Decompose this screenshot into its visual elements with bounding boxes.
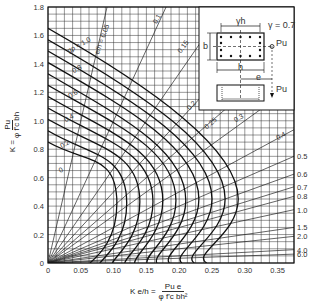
- interaction-diagram: 00.050.100.150.200.250.300.3500.20.40.60…: [0, 0, 312, 306]
- eh-top-label: 0.15: [176, 39, 190, 54]
- eh-top-label: 0.1: [151, 13, 162, 25]
- x-tick-label: 0.05: [73, 266, 88, 275]
- x-tick-label: 0.20: [172, 266, 187, 275]
- eh-right-label: 0.7: [297, 183, 307, 192]
- x-tick-label: 0.35: [270, 266, 285, 275]
- x-tick-label: 0.10: [106, 266, 121, 275]
- y-tick-label: 1.6: [34, 31, 44, 40]
- eh-top-label: e/h = 0.05: [93, 23, 110, 55]
- x-tick-label: 0.15: [139, 266, 154, 275]
- h-label: h: [238, 62, 243, 72]
- gamma-h-label: γh: [236, 16, 246, 26]
- gamma-value-label: γ = 0.7: [268, 20, 295, 30]
- y-tick-label: 1.8: [34, 3, 44, 12]
- y-tick-label: 0.2: [34, 231, 44, 240]
- y-tick-label: 0: [40, 259, 44, 268]
- eh-right-label: 6.0: [297, 250, 307, 259]
- curve-label: 0.2: [59, 138, 71, 149]
- x-tick-label: 0.30: [237, 266, 252, 275]
- b-label: b: [203, 41, 208, 51]
- eh-right-label: 0.5: [297, 152, 307, 161]
- curve-label: 0.6: [67, 88, 79, 99]
- y-axis-label: K = Pu φ f'c bh: [5, 92, 19, 172]
- eh-right-label: 0.8: [297, 192, 307, 201]
- x-axis-label: K e/h = Pu e φ f'c bh²: [130, 282, 188, 301]
- y-tick-label: 1.0: [34, 117, 44, 126]
- eh-right-label: 2.0: [297, 232, 307, 241]
- y-tick-label: 1.2: [34, 88, 44, 97]
- pu-side-label: Pu: [276, 84, 287, 94]
- e-label: e: [256, 72, 261, 82]
- y-tick-label: 0.8: [34, 145, 44, 154]
- eh-right-label: 1.5: [297, 223, 307, 232]
- eh-top-label: 0.4: [275, 130, 287, 141]
- y-tick-label: 0.6: [34, 174, 44, 183]
- eh-right-label: 0.6: [297, 170, 307, 179]
- y-tick-label: 0.4: [34, 202, 44, 211]
- x-tick-label: 0.25: [205, 266, 220, 275]
- curve-label: 0: [57, 166, 64, 174]
- eh-right-label: 1.0: [297, 206, 307, 215]
- y-tick-label: 1.4: [34, 60, 44, 69]
- pu-top-label: Pu: [276, 38, 287, 48]
- eh-top-label: 0.2: [185, 99, 197, 111]
- x-tick-label: 0: [46, 266, 50, 275]
